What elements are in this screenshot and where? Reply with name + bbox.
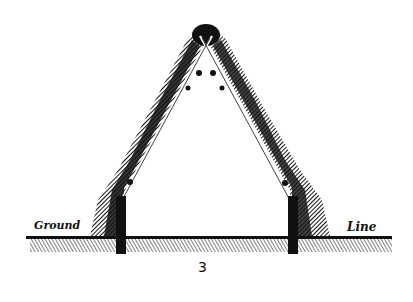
apex-cap bbox=[192, 24, 220, 46]
ground-hatching bbox=[26, 236, 392, 252]
left-post bbox=[116, 196, 126, 254]
ground-label: Ground bbox=[34, 219, 80, 232]
a-frame-diagram bbox=[0, 0, 413, 302]
right-post bbox=[288, 196, 298, 254]
diagram-figure: Ground Line 3 bbox=[0, 0, 413, 302]
figure-number: 3 bbox=[198, 259, 207, 275]
line-label: Line bbox=[347, 220, 376, 234]
